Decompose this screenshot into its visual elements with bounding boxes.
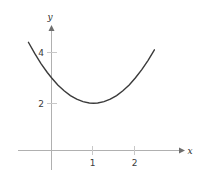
x-tick-label-2: 2 [132,158,138,168]
parabola-curve [28,42,154,103]
x-axis-label: x [187,146,192,156]
y-axis-label: y [46,12,53,22]
x-axis-arrow-icon [179,148,185,154]
plot-canvas: 1 2 2 4 x y [0,0,208,175]
graph-figure: 1 2 2 4 x y [0,0,208,175]
y-axis-arrow-icon [49,25,55,31]
y-tick-label-4: 4 [38,48,44,58]
x-tick-label-1: 1 [90,158,96,168]
y-tick-label-2: 2 [38,99,44,109]
